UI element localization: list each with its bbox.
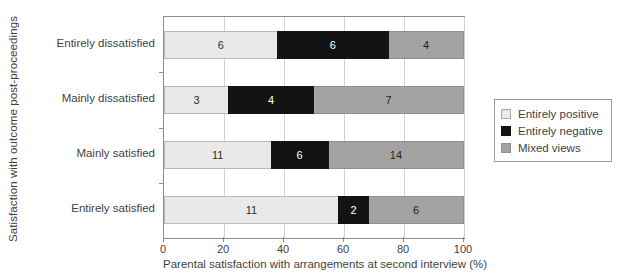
bar-segment-value: 2 [350, 204, 356, 216]
x-axis-title: Parental satisfaction with arrangements … [163, 258, 463, 270]
bar-segment-entirely-negative[interactable]: 2 [338, 196, 370, 224]
bar-segment-value: 6 [297, 149, 303, 161]
bar-segment-value: 11 [246, 204, 257, 216]
x-axis-tick-label: 0 [160, 243, 166, 255]
bar-segment-entirely-positive[interactable]: 11 [164, 196, 338, 224]
legend-item-label: Entirely negative [518, 125, 603, 137]
bar-segment-entirely-negative[interactable]: 6 [271, 141, 329, 169]
x-axis-tick [283, 237, 284, 242]
bar-segment-value: 4 [268, 94, 274, 106]
y-axis-category-label: Entirely dissatisfied [25, 37, 155, 50]
x-axis-tick [403, 237, 404, 242]
x-axis-tick [463, 237, 464, 242]
bar-stack[interactable]: 664 [164, 31, 464, 59]
swatch-mixed-views-icon [501, 143, 511, 153]
bar-segment-value: 14 [390, 149, 402, 161]
gridline [464, 17, 465, 238]
legend-item-label: Mixed views [518, 142, 581, 154]
plot-area: 664347116141126 [163, 16, 465, 239]
bar-stack[interactable]: 11614 [164, 141, 464, 169]
bar-segment-value: 6 [330, 39, 336, 51]
x-axis-tick-label: 60 [337, 243, 349, 255]
bar-segment-entirely-negative[interactable]: 4 [228, 86, 314, 114]
x-axis-tick [223, 237, 224, 242]
bar-segment-mixed-views[interactable]: 7 [314, 86, 464, 114]
x-axis-tick-labels: 020406080100 [163, 243, 465, 259]
x-axis-tick [343, 237, 344, 242]
bar-segment-entirely-negative[interactable]: 6 [277, 31, 390, 59]
bar-segment-value: 7 [385, 94, 391, 106]
swatch-entirely-positive-icon [501, 109, 511, 119]
chart-legend: Entirely positiveEntirely negativeMixed … [494, 99, 612, 162]
bar-segment-entirely-positive[interactable]: 6 [164, 31, 277, 59]
bar-segment-value: 11 [212, 149, 223, 161]
y-axis-tick [159, 128, 164, 129]
x-axis-tick-label: 80 [397, 243, 409, 255]
bar-segment-mixed-views[interactable]: 4 [389, 31, 464, 59]
bar-segment-value: 3 [194, 94, 200, 106]
y-axis-title-text: Satisfaction with outcome post-proceedin… [7, 16, 19, 242]
bar-segment-mixed-views[interactable]: 6 [369, 196, 464, 224]
y-axis-tick [159, 72, 164, 73]
x-axis-tick-label: 40 [277, 243, 289, 255]
x-axis-tick [163, 237, 164, 242]
bar-segment-mixed-views[interactable]: 14 [329, 141, 465, 169]
bar-segment-entirely-positive[interactable]: 11 [164, 141, 271, 169]
x-axis-tick-label: 20 [217, 243, 229, 255]
plot-inner: 664347116141126 [164, 17, 464, 238]
bar-stack[interactable]: 1126 [164, 196, 464, 224]
y-axis-category-label: Entirely satisfied [25, 202, 155, 215]
y-axis-category-label: Mainly dissatisfied [25, 92, 155, 105]
bar-segment-value: 6 [413, 204, 419, 216]
bar-stack[interactable]: 347 [164, 86, 464, 114]
y-axis-category-label: Mainly satisfied [25, 147, 155, 160]
swatch-entirely-negative-icon [501, 126, 511, 136]
bar-segment-value: 6 [218, 39, 224, 51]
y-axis-tick [159, 183, 164, 184]
legend-item-entirely-negative[interactable]: Entirely negative [501, 122, 603, 139]
bar-segment-entirely-positive[interactable]: 3 [164, 86, 228, 114]
y-axis-title: Satisfaction with outcome post-proceedin… [0, 0, 26, 258]
legend-item-mixed-views[interactable]: Mixed views [501, 139, 603, 156]
y-axis-category-labels: Entirely dissatisfiedMainly dissatisfied… [28, 16, 161, 237]
x-axis-tick-label: 100 [454, 243, 472, 255]
bar-segment-value: 4 [423, 39, 429, 51]
legend-item-label: Entirely positive [518, 108, 599, 120]
legend-item-entirely-positive[interactable]: Entirely positive [501, 105, 603, 122]
